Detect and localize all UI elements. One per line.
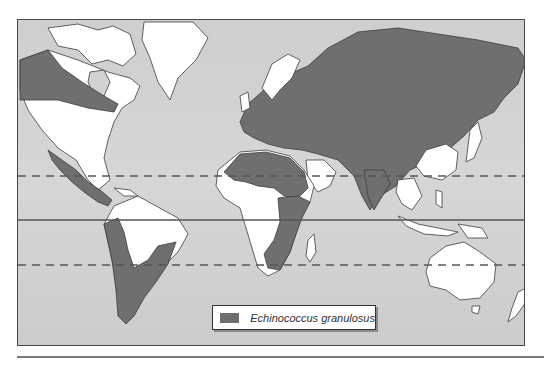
new-guinea — [458, 224, 488, 238]
map-svg — [18, 20, 525, 346]
legend-swatch-endemic — [220, 313, 239, 323]
caribbean — [114, 188, 138, 196]
british-isles — [240, 92, 250, 112]
greenland — [142, 22, 208, 100]
southeast-asia — [396, 178, 422, 210]
bottom-rule — [17, 356, 544, 358]
legend-label: Echinococcus granulosus — [250, 312, 375, 324]
new-zealand — [508, 288, 525, 322]
philippines — [436, 190, 442, 208]
madagascar — [306, 234, 316, 262]
indonesia — [398, 216, 458, 236]
tasmania — [472, 306, 480, 314]
australia — [426, 242, 496, 300]
legend: Echinococcus granulosus — [212, 305, 376, 330]
world-map — [17, 19, 525, 346]
